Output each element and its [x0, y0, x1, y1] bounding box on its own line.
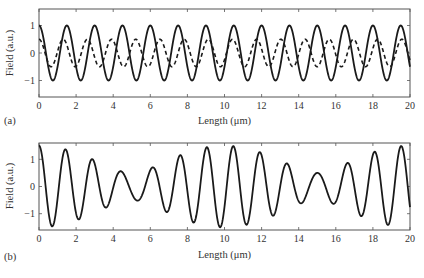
- x-tick-label: 6: [148, 233, 153, 244]
- figure: 02468101214161820 −101 Length (μm) Field…: [0, 0, 424, 278]
- x-tick-label: 8: [185, 233, 190, 244]
- panel-a-curves: [39, 26, 410, 81]
- x-tick-label: 6: [148, 100, 153, 111]
- panel-a-x-axis-label: Length (μm): [198, 115, 252, 127]
- x-tick-label: 12: [257, 233, 267, 244]
- x-tick-label: 8: [185, 100, 190, 111]
- panel-a: 02468101214161820 −101 Length (μm) Field…: [4, 9, 415, 127]
- y-tick-label: −1: [24, 75, 35, 86]
- x-tick-label: 4: [111, 100, 116, 111]
- x-tick-label: 12: [257, 100, 267, 111]
- panel-a-y-axis-label: Field (a.u.): [4, 29, 16, 76]
- x-tick-label: 2: [74, 233, 79, 244]
- x-tick-label: 4: [111, 233, 116, 244]
- x-tick-label: 0: [37, 233, 42, 244]
- x-tick-label: 18: [368, 100, 378, 111]
- y-tick-label: 0: [30, 48, 35, 59]
- panel-b-curves: [39, 146, 410, 227]
- x-tick-label: 14: [294, 100, 304, 111]
- panel-b-y-axis-label: Field (a.u.): [4, 162, 16, 209]
- x-tick-label: 10: [220, 100, 230, 111]
- x-tick-label: 16: [331, 233, 341, 244]
- x-tick-label: 10: [220, 233, 230, 244]
- y-tick-label: 0: [30, 181, 35, 192]
- x-tick-label: 2: [74, 100, 79, 111]
- y-tick-label: 1: [30, 20, 35, 31]
- x-tick-label: 18: [368, 233, 378, 244]
- panel-b-x-axis-label: Length (μm): [198, 249, 252, 261]
- x-tick-label: 16: [331, 100, 341, 111]
- solid-wave-line: [39, 146, 410, 227]
- x-tick-label: 14: [294, 233, 304, 244]
- x-tick-label: 0: [37, 100, 42, 111]
- panel-a-frame: [39, 9, 410, 97]
- x-tick-label: 20: [405, 100, 415, 111]
- x-tick-label: 20: [405, 233, 415, 244]
- panel-b: 02468101214161820 −101 Length (μm) Field…: [4, 143, 415, 263]
- y-tick-label: −1: [24, 208, 35, 219]
- panel-a-label: (a): [4, 115, 16, 127]
- panel-b-label: (b): [4, 251, 17, 263]
- y-tick-label: 1: [30, 154, 35, 165]
- solid-wave-line: [39, 26, 410, 81]
